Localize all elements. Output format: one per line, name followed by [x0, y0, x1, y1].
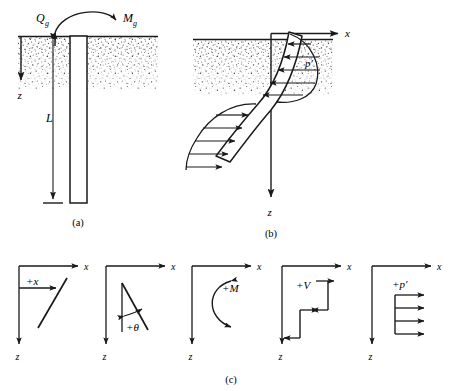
x-axis-label-b: x [344, 27, 350, 39]
convention-slope: x z +θ [102, 261, 177, 363]
lateral-load-label: Q g [36, 11, 49, 28]
c3-x-label: x [256, 261, 262, 272]
c4-symbol: +V [296, 279, 311, 291]
z-axis-label-a: z [17, 89, 23, 101]
c2-symbol: +θ [126, 321, 139, 333]
pile-shape-a [70, 36, 87, 203]
moment-label: M g [122, 11, 137, 28]
convention-shear: x z +V [278, 261, 353, 363]
lateral-load-subscript: g [45, 19, 49, 28]
panel-b-caption: (b) [265, 228, 278, 240]
c2-z-label: z [102, 351, 107, 362]
panel-a: z L Q g M g (a) [17, 11, 159, 229]
c1-x-label: x [83, 261, 89, 272]
c1-z-label: z [15, 351, 20, 362]
c3-z-label: z [188, 351, 193, 362]
z-axis-label-b: z [267, 206, 273, 218]
soil-reaction-label-b: p′ [304, 57, 314, 69]
c2-x-label: x [170, 261, 176, 272]
convention-soil-reaction: x z +p′ [368, 261, 443, 363]
c5-pressure-arrows [395, 295, 424, 334]
c3-symbol: +M [222, 282, 239, 294]
convention-deflection: x z +x [15, 261, 90, 363]
figure-root: z L Q g M g (a) x [0, 0, 462, 391]
panel-b: x z p′ (b) [186, 27, 350, 240]
convention-moment: x z +M [188, 261, 263, 363]
panel-a-caption: (a) [72, 217, 84, 229]
panel-c-caption: (c) [225, 374, 237, 386]
c1-deflected-line [38, 278, 67, 328]
length-label: L [45, 111, 53, 125]
panel-c: x z +x x z +θ x z +M [15, 261, 443, 387]
c1-symbol: +x [26, 275, 38, 287]
c5-x-label: x [436, 261, 442, 272]
moment-arc-arrow [55, 12, 116, 33]
soil-region-a [18, 37, 158, 89]
c4-z-label: z [278, 351, 283, 362]
moment-subscript: g [133, 19, 137, 28]
c5-symbol: +p′ [392, 278, 408, 290]
lateral-load-symbol: Q [36, 11, 45, 25]
c4-x-label: x [346, 261, 352, 272]
c5-z-label: z [368, 351, 373, 362]
